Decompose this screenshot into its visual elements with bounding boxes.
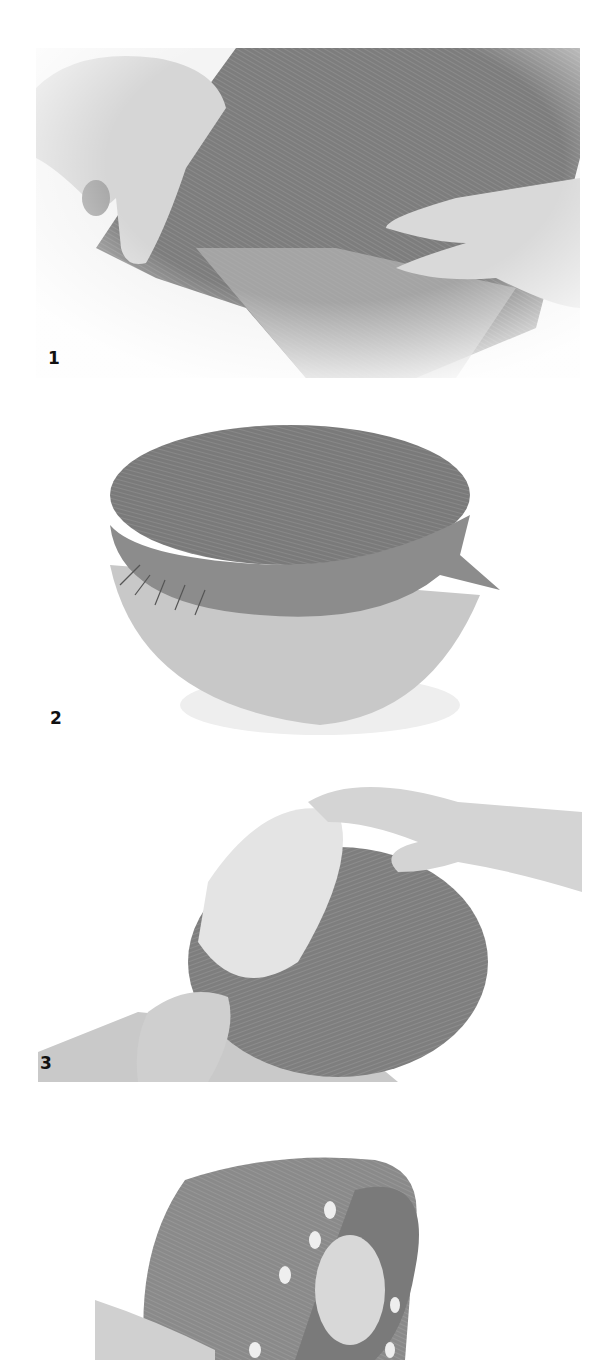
step-1-label: 1 <box>48 348 60 368</box>
blocked-crown-illustration <box>95 1150 605 1360</box>
fabric-stretching-illustration <box>36 48 580 378</box>
step-3-photo <box>38 782 582 1082</box>
smoothing-fabric-illustration <box>38 782 582 1082</box>
step-2-label: 2 <box>50 708 62 728</box>
step-3-label: 3 <box>40 1053 52 1073</box>
step-2-photo <box>80 415 590 755</box>
step-4-photo <box>95 1150 605 1360</box>
step-1-photo <box>36 48 580 378</box>
pinned-crown-illustration <box>80 415 590 755</box>
